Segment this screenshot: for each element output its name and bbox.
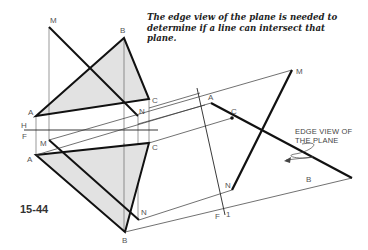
top-label-c: C — [152, 96, 158, 105]
aux-line-mn — [232, 70, 292, 190]
aux-label-c: C — [231, 107, 237, 116]
front-view-plane-abc — [36, 143, 149, 232]
top-label-a: A — [28, 108, 34, 117]
fold-line-f1: F 1 — [197, 88, 231, 221]
aux-label-b: B — [306, 175, 311, 184]
aux-label-n: N — [225, 181, 231, 190]
front-label-b: B — [122, 236, 127, 245]
orthographic-projection-diagram: M B C A N H F M A C B N F 1 — [0, 0, 368, 250]
front-label-a: A — [27, 155, 33, 164]
top-label-n: N — [139, 107, 145, 116]
aux-label-m: M — [296, 67, 303, 76]
fold-label-f: F — [22, 132, 27, 141]
fold-line-hf: H F — [21, 121, 158, 141]
fold-label-1: 1 — [226, 210, 231, 219]
fold-label-f2: F — [215, 212, 220, 221]
front-label-n: N — [141, 208, 147, 217]
leader-arrow-icon — [284, 143, 314, 163]
aux-label-a: A — [208, 93, 214, 102]
auxiliary-view: A C M N B — [208, 67, 352, 190]
front-label-c: C — [152, 143, 158, 152]
front-label-m: M — [40, 139, 47, 148]
top-view-plane-abc — [36, 38, 149, 116]
top-label-m: M — [50, 16, 57, 25]
top-label-b: B — [120, 26, 125, 35]
fold-label-h: H — [21, 121, 27, 130]
